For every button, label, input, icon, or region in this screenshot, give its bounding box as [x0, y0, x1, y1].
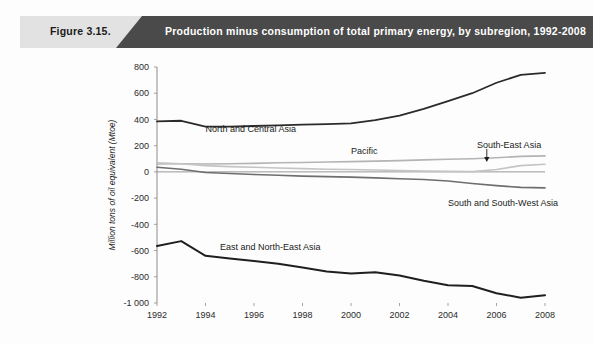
series-label-south-and-south-west-asia: South and South-West Asia: [448, 198, 558, 208]
x-tick-label: 1998: [292, 310, 312, 320]
y-tick-label: 600: [134, 88, 149, 98]
y-axis-tick-labels: 8006004002000-200-400-600-800-1 000: [123, 62, 149, 308]
series-label-north-and-central-asia: North and Central Asia: [206, 124, 297, 134]
x-tick-label: 1992: [147, 310, 167, 320]
y-tick-label: -800: [131, 272, 149, 282]
x-tick-label: 1996: [244, 310, 264, 320]
chart-container: 8006004002000-200-400-600-800-1 000 1992…: [0, 52, 593, 344]
x-tick-label: 2004: [438, 310, 458, 320]
figure-banner: Figure 3.15. Production minus consumptio…: [20, 16, 593, 48]
y-tick-label: -400: [131, 220, 149, 230]
x-tick-label: 2006: [486, 310, 506, 320]
y-tick-label: 800: [134, 62, 149, 72]
y-tick-label: -1 000: [123, 298, 149, 308]
line-chart: 8006004002000-200-400-600-800-1 000 1992…: [0, 52, 593, 344]
figure-number-label: Figure 3.15.: [50, 25, 111, 37]
x-axis-tick-labels: 199219941996199820002002200420062008: [147, 310, 555, 320]
x-tick-label: 2002: [389, 310, 409, 320]
y-axis-title: Million tons of oil equivalent (Mtoe): [107, 119, 117, 250]
y-tick-label: -600: [131, 246, 149, 256]
series-line-east-and-north-east-asia: [157, 241, 545, 298]
series-label-south-east-asia: South-East Asia: [477, 140, 541, 150]
series-label-pacific: Pacific: [351, 146, 378, 156]
x-tick-label: 1994: [195, 310, 215, 320]
y-tick-label: 200: [134, 141, 149, 151]
chart-axes: [154, 67, 545, 306]
figure-title: Production minus consumption of total pr…: [165, 25, 586, 37]
x-tick-label: 2008: [535, 310, 555, 320]
y-tick-label: -200: [131, 193, 149, 203]
series-label-east-and-north-east-asia: East and North-East Asia: [220, 242, 321, 252]
y-tick-label: 0: [144, 167, 149, 177]
x-tick-label: 2000: [341, 310, 361, 320]
series-lines: [157, 73, 545, 298]
y-tick-label: 400: [134, 115, 149, 125]
series-callout-arrow-head: [484, 157, 489, 162]
series-line-north-and-central-asia: [157, 73, 545, 127]
series-labels: North and Central AsiaPacificSouth-East …: [206, 124, 558, 253]
